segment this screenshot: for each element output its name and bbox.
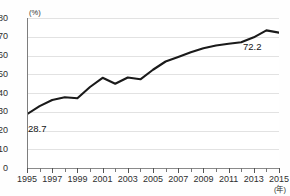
x-axis-tick — [254, 168, 255, 173]
y-axis-tick-label: 40 — [0, 89, 8, 98]
x-axis-tick — [191, 168, 192, 172]
x-axis-tick — [203, 168, 204, 173]
x-axis-tick — [27, 168, 28, 173]
chart-title — [0, 0, 290, 2]
x-axis-tick — [65, 168, 66, 172]
x-axis-tick — [166, 168, 167, 172]
line-chart: (%) 01020304050607080 199519971999200120… — [0, 0, 290, 196]
y-axis-tick-label: 70 — [0, 32, 8, 41]
x-axis-tick — [128, 168, 129, 173]
x-axis-tick-label: 2015 — [264, 174, 290, 184]
x-axis-tick — [266, 168, 267, 172]
x-axis-tick — [153, 168, 154, 173]
x-axis-ticks — [27, 168, 279, 173]
x-axis-tick — [140, 168, 141, 172]
x-axis-tick — [216, 168, 217, 172]
x-axis-tick — [52, 168, 53, 173]
x-axis-tick — [90, 168, 91, 172]
x-axis-tick — [40, 168, 41, 172]
x-axis-tick — [178, 168, 179, 173]
x-axis-tick — [103, 168, 104, 173]
y-axis-tick-label: 80 — [0, 14, 8, 23]
y-axis-tick-label: 0 — [0, 164, 8, 173]
y-axis-unit-label: (%) — [29, 9, 41, 17]
y-axis-tick-label: 60 — [0, 51, 8, 60]
x-axis-tick — [115, 168, 116, 172]
x-axis-tick-labels: 1995199719992001200320052007200920112013… — [0, 174, 290, 186]
plot-area — [27, 18, 279, 168]
x-axis-tick — [77, 168, 78, 173]
x-axis-tick — [241, 168, 242, 172]
y-axis-tick-label: 50 — [0, 70, 8, 79]
x-axis-tick — [279, 168, 280, 173]
y-axis-tick-label: 30 — [0, 107, 8, 116]
y-axis-tick-label: 20 — [0, 126, 8, 135]
data-label-first: 28.7 — [28, 124, 47, 134]
data-line-series — [27, 18, 279, 168]
y-axis-tick-label: 10 — [0, 145, 8, 154]
x-axis-unit-label: (年) — [274, 186, 286, 194]
x-axis-tick — [229, 168, 230, 173]
data-label-last: 72.2 — [243, 42, 262, 52]
y-axis-line — [27, 18, 28, 169]
